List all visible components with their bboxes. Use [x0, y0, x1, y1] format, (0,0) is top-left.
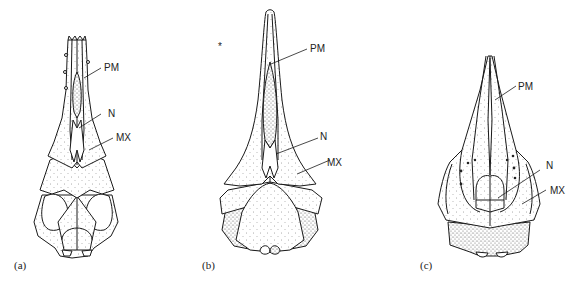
label-n-c: N — [546, 160, 553, 171]
skull-figure: PM N MX (a) PM N MX * (b) — [0, 0, 583, 284]
panel-label-a: (a) — [14, 259, 27, 272]
panel-label-b: (b) — [202, 259, 215, 272]
label-n-a: N — [108, 108, 115, 119]
label-mx-c: MX — [550, 185, 565, 196]
label-n-b: N — [320, 131, 327, 142]
label-pm-b: PM — [310, 43, 325, 54]
skull-b — [220, 10, 322, 254]
label-pm-a: PM — [104, 62, 119, 73]
label-pm-c: PM — [518, 81, 533, 92]
panel-label-c: (c) — [420, 259, 433, 272]
stray-mark: * — [218, 41, 222, 52]
label-mx-b: MX — [327, 157, 342, 168]
label-mx-a: MX — [116, 132, 131, 143]
